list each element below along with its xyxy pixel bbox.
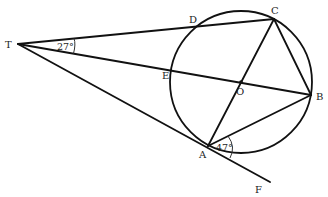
label-f: F [255,184,262,195]
label-c: C [271,5,279,16]
label-d: D [189,14,197,25]
angle-label-t: 27° [57,41,74,52]
label-o: O [236,86,244,97]
label-b: B [316,91,323,102]
chord-ab [208,95,311,146]
label-t: T [5,39,12,50]
label-a: A [198,149,207,160]
center-dot [239,80,243,84]
angle-label-a: 47° [216,142,233,153]
label-e: E [162,70,169,81]
geometry-diagram: T D C E O B A F 27° 47° [0,0,328,197]
chord-cb [274,19,311,95]
tangent-tf [18,44,270,182]
